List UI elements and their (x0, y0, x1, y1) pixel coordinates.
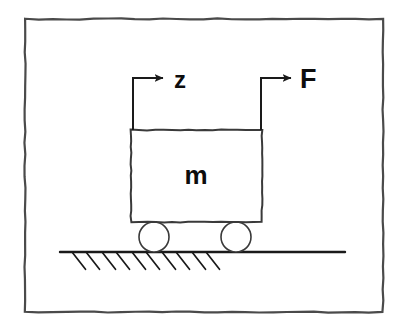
ground-hatch-mark (102, 252, 116, 269)
ground-surface (60, 252, 345, 269)
ground-hatch-mark (192, 252, 206, 269)
wheel-right (221, 222, 251, 252)
ground-hatch-mark (176, 252, 190, 269)
mass-block: m (131, 130, 263, 223)
ground-hatch-mark (132, 252, 146, 269)
ground-hatch-mark (116, 252, 130, 269)
displacement-arrow-label: z (174, 66, 186, 93)
displacement-arrow: z (133, 66, 186, 130)
mechanics-diagram-figure: m z F (0, 0, 402, 330)
mass-label: m (184, 160, 207, 190)
wheel-left (139, 222, 169, 252)
ground-hatch-mark (72, 252, 86, 269)
force-arrow: F (261, 64, 317, 130)
wheel-group (139, 222, 251, 252)
ground-hatch-mark (86, 252, 100, 269)
ground-hatch-mark (162, 252, 176, 269)
ground-hatch-mark (146, 252, 160, 269)
force-arrow-label: F (300, 64, 317, 94)
ground-hatching (72, 252, 220, 269)
ground-hatch-mark (206, 252, 220, 269)
diagram-canvas: m z F (0, 0, 402, 330)
